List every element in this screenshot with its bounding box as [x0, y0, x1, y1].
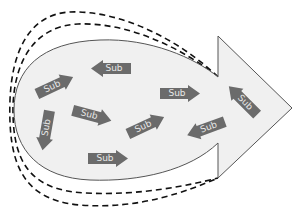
- process-diagram: Sub Sub Sub Sub Sub Sub Sub Sub: [0, 0, 305, 218]
- sub-label: Sub: [101, 60, 127, 77]
- sub-arrow-5: Sub: [88, 150, 128, 167]
- sub-label: Sub: [164, 85, 190, 102]
- sub-label: Sub: [92, 150, 118, 167]
- sub-arrow-7: Sub: [160, 85, 200, 102]
- sub-arrow-2: Sub: [91, 60, 131, 77]
